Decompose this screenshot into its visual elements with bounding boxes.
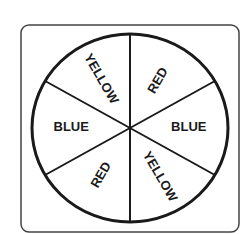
spinner-section-label-blue: BLUE <box>171 119 207 134</box>
spinner-diagram: REDBLUEYELLOWREDBLUEYELLOW <box>0 0 251 234</box>
spinner-section-label-blue: BLUE <box>54 119 90 134</box>
